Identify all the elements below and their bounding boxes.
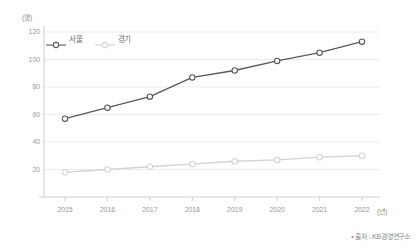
legend-label-seoul: 서울	[69, 33, 83, 44]
x-axis-tick-label: 2021	[305, 206, 335, 213]
x-axis-tick-label: 2019	[220, 206, 250, 213]
x-axis-tick-label: 2017	[135, 206, 165, 213]
y-axis-tick-label: 100	[14, 56, 40, 63]
y-axis-tick-label: 80	[14, 83, 40, 90]
x-axis-tick-label: 2020	[262, 206, 292, 213]
legend-label-gyeonggi: 경기	[118, 33, 132, 44]
source-note: • 출처 : KB경영연구소	[351, 231, 410, 241]
x-axis-tick-label: 2018	[177, 206, 207, 213]
chart-legend: 서울 경기	[46, 33, 131, 44]
y-axis-tick-label: 40	[14, 138, 40, 145]
x-axis-tick-label: 2016	[92, 206, 122, 213]
x-axis-tick-label: 2022	[347, 206, 377, 213]
y-axis-tick-label: 60	[14, 111, 40, 118]
legend-marker-gyeonggi-icon	[95, 35, 115, 43]
legend-item-seoul[interactable]: 서울	[46, 33, 83, 44]
series-seoul	[62, 39, 364, 121]
line-chart: (명) 서울 경기 (년) • 출처 : KB경영연구소 12010080604…	[0, 0, 420, 249]
y-axis-tick-label: 120	[14, 28, 40, 35]
legend-item-gyeonggi[interactable]: 경기	[95, 33, 132, 44]
series-gyeonggi	[62, 153, 364, 175]
x-axis-tick-label: 2015	[50, 206, 80, 213]
x-axis-unit-label: (년)	[377, 206, 387, 216]
legend-marker-seoul-icon	[46, 35, 66, 43]
y-axis-tick-label: 20	[14, 166, 40, 173]
